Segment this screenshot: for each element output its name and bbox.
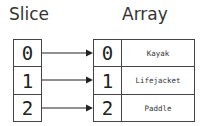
array-value-0: Kayak bbox=[122, 40, 194, 66]
array-value-2: Paddle bbox=[122, 95, 194, 121]
slice-index-2: 2 bbox=[14, 95, 41, 121]
pointer-arrows bbox=[42, 50, 93, 112]
array-index-1: 1 bbox=[94, 67, 121, 94]
slice-index-0: 0 bbox=[14, 40, 41, 66]
slice-index-1: 1 bbox=[14, 67, 41, 94]
array-index-2: 2 bbox=[94, 95, 121, 121]
array-value-1: Lifejacket bbox=[122, 67, 194, 94]
array-index-0: 0 bbox=[94, 40, 121, 66]
